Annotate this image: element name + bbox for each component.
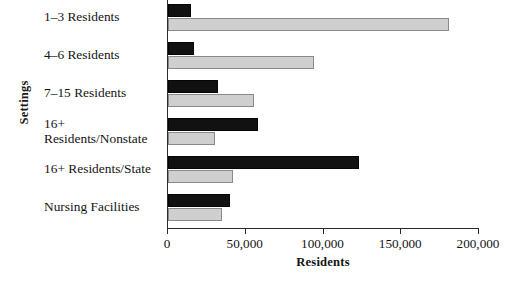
x-tick-3 <box>400 229 401 234</box>
x-tick-2 <box>323 229 324 234</box>
x-tick-0 <box>167 229 168 234</box>
x-tick-label-1: 50,000 <box>205 236 285 252</box>
y-axis-title: Settings <box>17 63 32 143</box>
category-label-1: 4–6 Residents <box>44 47 162 63</box>
x-axis-title: Residents <box>167 255 479 270</box>
category-label-5: Nursing Facilities <box>44 199 162 215</box>
category-label-0: 1–3 Residents <box>44 9 162 25</box>
x-tick-label-4: 200,000 <box>438 236 518 252</box>
bar-series-dark-5 <box>168 194 230 207</box>
x-tick-label-0: 0 <box>127 236 207 252</box>
x-tick-4 <box>478 229 479 234</box>
bar-series-dark-4 <box>168 156 359 169</box>
x-tick-1 <box>245 229 246 234</box>
bar-series-dark-2 <box>168 80 218 93</box>
bar-series-light-4 <box>168 170 233 183</box>
category-label-4: 16+ Residents/State <box>44 161 162 177</box>
bar-series-light-0 <box>168 18 449 31</box>
bar-series-dark-0 <box>168 4 191 17</box>
bar-series-light-3 <box>168 132 215 145</box>
category-label-2: 7–15 Residents <box>44 85 162 101</box>
bar-series-light-5 <box>168 208 222 221</box>
category-label-list: 1–3 Residents4–6 Residents7–15 Residents… <box>44 0 162 228</box>
x-tick-label-2: 100,000 <box>283 236 363 252</box>
bar-series-light-1 <box>168 56 314 69</box>
bar-series-light-2 <box>168 94 254 107</box>
bar-series-dark-1 <box>168 42 194 55</box>
bar-chart: Settings 1–3 Residents4–6 Residents7–15 … <box>0 0 531 282</box>
bar-series-dark-3 <box>168 118 258 131</box>
x-tick-label-3: 150,000 <box>360 236 440 252</box>
category-label-3: 16+ Residents/Nonstate <box>44 116 162 147</box>
plot-area <box>167 0 478 228</box>
